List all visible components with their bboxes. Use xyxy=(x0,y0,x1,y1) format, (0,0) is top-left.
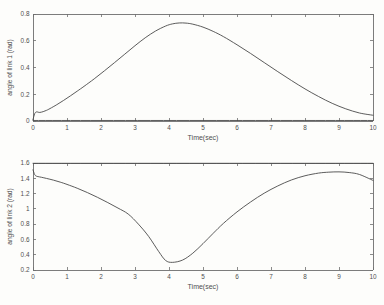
ytick-labels-link1: 00.20.40.60.8 xyxy=(21,10,30,124)
ytick-label: 1.6 xyxy=(21,159,30,166)
tickmarks-link1 xyxy=(33,14,373,121)
ytick-label: 1 xyxy=(26,205,30,212)
ytick-label: 1.2 xyxy=(21,190,30,197)
xtick-label: 4 xyxy=(167,124,171,131)
x-axis-title-link1: Time(sec) xyxy=(188,134,219,142)
xtick-labels-link1: 012345678910 xyxy=(31,124,377,131)
curve-link2 xyxy=(33,163,373,262)
ytick-label: 0.8 xyxy=(21,220,30,227)
xtick-label: 2 xyxy=(99,273,103,280)
chart-panel-link1: 012345678910 00.20.40.60.8 Time(sec) ang… xyxy=(0,0,384,152)
xtick-label: 10 xyxy=(369,273,377,280)
xtick-label: 1 xyxy=(65,273,69,280)
ytick-label: 0 xyxy=(26,117,30,124)
tickmarks-link2 xyxy=(33,163,373,270)
xtick-labels-link2: 012345678910 xyxy=(31,273,377,280)
y-axis-title-link1: angle of link 1 (rad) xyxy=(6,39,14,95)
curve-link1 xyxy=(33,23,373,121)
xtick-label: 10 xyxy=(369,124,377,131)
xtick-label: 4 xyxy=(167,273,171,280)
xtick-label: 6 xyxy=(235,273,239,280)
ytick-label: 0.6 xyxy=(21,37,30,44)
xtick-label: 7 xyxy=(269,124,273,131)
ytick-label: 0.8 xyxy=(21,10,30,17)
xtick-label: 8 xyxy=(303,124,307,131)
ytick-label: 0.6 xyxy=(21,236,30,243)
chart-panel-link2: 012345678910 0.20.40.60.811.21.41.6 Time… xyxy=(0,152,384,305)
y-axis-title-link2: angle of link 2 (rad) xyxy=(6,188,14,244)
xtick-label: 9 xyxy=(337,124,341,131)
xtick-label: 2 xyxy=(99,124,103,131)
figure-container: 012345678910 00.20.40.60.8 Time(sec) ang… xyxy=(0,0,384,305)
xtick-label: 7 xyxy=(269,273,273,280)
xtick-label: 3 xyxy=(133,124,137,131)
ytick-label: 0.2 xyxy=(21,266,30,273)
xtick-label: 6 xyxy=(235,124,239,131)
ytick-label: 0.4 xyxy=(21,64,30,71)
xtick-label: 3 xyxy=(133,273,137,280)
x-axis-title-link2: Time(sec) xyxy=(188,283,219,291)
axes-link2 xyxy=(33,163,373,270)
xtick-label: 0 xyxy=(31,273,35,280)
xtick-label: 5 xyxy=(201,124,205,131)
ytick-label: 1.4 xyxy=(21,175,30,182)
xtick-label: 8 xyxy=(303,273,307,280)
ytick-labels-link2: 0.20.40.60.811.21.41.6 xyxy=(21,159,30,273)
plot-link1: 012345678910 00.20.40.60.8 Time(sec) ang… xyxy=(0,0,384,152)
xtick-label: 5 xyxy=(201,273,205,280)
ytick-label: 0.2 xyxy=(21,91,30,98)
xtick-label: 0 xyxy=(31,124,35,131)
axes-link1 xyxy=(33,14,373,121)
ytick-label: 0.4 xyxy=(21,251,30,258)
xtick-label: 1 xyxy=(65,124,69,131)
xtick-label: 9 xyxy=(337,273,341,280)
plot-link2: 012345678910 0.20.40.60.811.21.41.6 Time… xyxy=(0,152,384,305)
